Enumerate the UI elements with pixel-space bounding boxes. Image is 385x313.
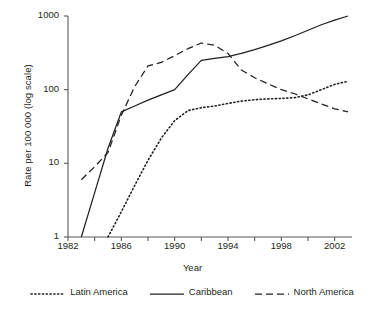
chart-figure: Rate per 100 000 (log scale) 1101001000 … [0, 0, 385, 313]
legend-swatch-dotted [31, 291, 65, 292]
legend-swatch-dashed [255, 291, 289, 292]
legend-item: Caribbean [150, 286, 233, 297]
x-tick-label: 1986 [101, 240, 141, 251]
x-tick-label: 1998 [261, 240, 301, 251]
series-line-caribbean [81, 16, 348, 237]
x-axis-title: Year [0, 262, 385, 273]
x-tick-label: 2002 [315, 240, 355, 251]
chart-legend: Latin AmericaCaribbeanNorth America [0, 286, 385, 297]
x-tick-label: 1982 [48, 240, 88, 251]
x-tick-label: 1994 [208, 240, 248, 251]
legend-item: North America [255, 286, 354, 297]
legend-label: North America [294, 286, 354, 297]
legend-label: Caribbean [189, 286, 233, 297]
legend-item: Latin America [31, 286, 128, 297]
axis-spines [68, 16, 352, 237]
y-tick-label: 1000 [19, 9, 59, 20]
y-tick-label: 10 [19, 156, 59, 167]
series-line-latin-america [108, 81, 348, 237]
y-tick-label: 100 [19, 83, 59, 94]
legend-label: Latin America [70, 286, 128, 297]
x-tick-label: 1990 [155, 240, 195, 251]
legend-swatch-solid [150, 291, 184, 292]
